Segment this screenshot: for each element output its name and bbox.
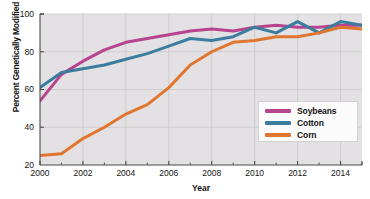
legend-label: Cotton — [297, 118, 324, 128]
legend-swatch-icon — [265, 121, 291, 125]
x-tick-label: 2004 — [109, 168, 143, 178]
legend-item-soybeans: Soybeans — [259, 105, 357, 117]
x-tick-label: 2000 — [23, 168, 57, 178]
x-tick-label: 2010 — [238, 168, 272, 178]
x-tick-label: 2008 — [195, 168, 229, 178]
legend-label: Corn — [297, 130, 316, 140]
x-tick-label: 2006 — [152, 168, 186, 178]
legend-swatch-icon — [265, 109, 291, 113]
chart-container: Percent Genetically Modified 100 80 60 4… — [0, 0, 370, 199]
x-axis-title: Year — [40, 183, 362, 193]
x-tick-label: 2012 — [281, 168, 315, 178]
x-tick-label: 2014 — [324, 168, 358, 178]
legend-item-cotton: Cotton — [259, 117, 357, 129]
chart-legend: Soybeans Cotton Corn — [258, 101, 358, 142]
legend-label: Soybeans — [297, 106, 336, 116]
legend-item-corn: Corn — [259, 129, 357, 141]
x-tick-label: 2002 — [66, 168, 100, 178]
legend-swatch-icon — [265, 133, 291, 137]
